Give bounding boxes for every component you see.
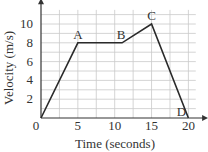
point-label-b: B bbox=[117, 27, 126, 42]
x-tick-label: 5 bbox=[75, 118, 82, 133]
x-tick-label: 20 bbox=[182, 118, 195, 133]
point-label-c: C bbox=[147, 8, 156, 23]
x-axis-label: Time (seconds) bbox=[75, 136, 155, 151]
point-labels: ABCD bbox=[73, 8, 186, 119]
y-tick-label: 10 bbox=[20, 16, 33, 31]
y-axis-arrow-icon bbox=[38, 0, 44, 4]
y-tick-label: 8 bbox=[27, 35, 34, 50]
point-label-a: A bbox=[73, 27, 83, 42]
velocity-time-graph: 5101520246810 ABCD Time (seconds) Veloci… bbox=[0, 0, 208, 152]
x-axis-arrow-icon bbox=[202, 115, 208, 121]
y-tick-label: 6 bbox=[27, 54, 34, 69]
origin-label: 0 bbox=[33, 118, 40, 133]
x-tick-label: 15 bbox=[145, 118, 158, 133]
point-label-d: D bbox=[177, 104, 186, 119]
y-axis-label: Velocity (m/s) bbox=[1, 31, 16, 105]
x-tick-label: 10 bbox=[108, 118, 121, 133]
y-tick-label: 4 bbox=[27, 72, 34, 87]
y-tick-label: 2 bbox=[27, 91, 34, 106]
